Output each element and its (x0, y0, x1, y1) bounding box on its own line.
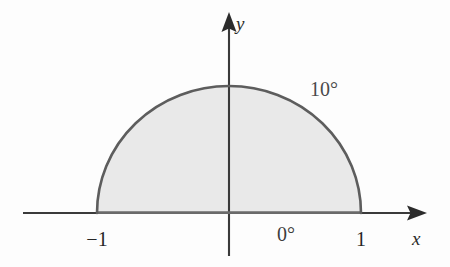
annotation-ten-degrees: 10° (310, 78, 338, 100)
x-axis-label: x (411, 228, 421, 249)
figure-container: y x −1 1 10° 0° (0, 0, 450, 267)
semicircle-diagram: y x −1 1 10° 0° (0, 0, 450, 267)
tick-label-minus-one: −1 (86, 228, 107, 250)
y-axis-label: y (234, 13, 245, 34)
annotation-zero-degrees: 0° (277, 223, 295, 245)
tick-label-one: 1 (356, 228, 366, 250)
